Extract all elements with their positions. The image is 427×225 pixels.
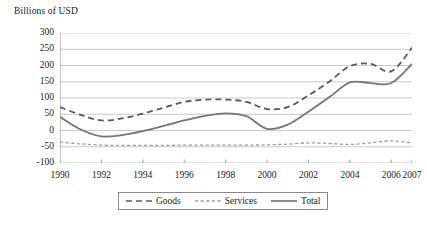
y-tick-label: -100	[20, 158, 54, 168]
legend-label-total: Total	[301, 196, 320, 206]
y-tick-label: 300	[20, 28, 54, 38]
y-tick-label: 100	[20, 93, 54, 103]
x-tick-label: 1990	[51, 170, 70, 180]
x-tick-label: 1998	[216, 170, 235, 180]
y-tick-label: 200	[20, 61, 54, 71]
y-axis-title: Billions of USD	[14, 6, 78, 16]
y-tick-label: -50	[20, 142, 54, 152]
legend-item-goods: Goods	[126, 196, 181, 206]
legend-label-goods: Goods	[156, 196, 181, 206]
y-tick-label: 0	[20, 126, 54, 136]
x-tick-label: 2007	[403, 170, 422, 180]
series-line-services	[60, 141, 412, 146]
x-tick-label: 1994	[133, 170, 152, 180]
legend-swatch-total	[271, 196, 297, 206]
x-tick-label: 2004	[340, 170, 359, 180]
y-tick-label: 250	[20, 44, 54, 54]
chart-container: Billions of USD 300250200150100500-50-10…	[0, 0, 427, 225]
legend-item-services: Services	[195, 196, 257, 206]
plot-svg	[60, 33, 412, 163]
x-tick-label: 1992	[92, 170, 111, 180]
y-tick-label: 50	[20, 109, 54, 119]
chart-legend: Goods Services Total	[118, 192, 328, 210]
series-line-goods	[60, 48, 412, 121]
y-tick-label: 150	[20, 77, 54, 87]
legend-swatch-goods	[126, 196, 152, 206]
x-tick-label: 2000	[258, 170, 277, 180]
x-tick-label: 1996	[175, 170, 194, 180]
legend-swatch-services	[195, 196, 221, 206]
legend-label-services: Services	[225, 196, 257, 206]
x-tick-label: 2002	[299, 170, 318, 180]
plot-area	[60, 33, 412, 163]
x-tick-label: 2006	[382, 170, 401, 180]
legend-item-total: Total	[271, 196, 320, 206]
